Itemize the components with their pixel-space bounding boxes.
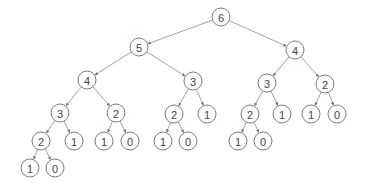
- tree-edge: [315, 92, 321, 105]
- tree-node: 1: [21, 159, 39, 177]
- node-label: 1: [235, 136, 241, 148]
- node-label: 1: [160, 136, 166, 148]
- tree-edge: [301, 57, 319, 77]
- tree-edge: [179, 89, 189, 106]
- tree-edge: [64, 121, 70, 132]
- tree-edge: [66, 87, 81, 106]
- node-label: 6: [218, 12, 224, 24]
- node-label: 2: [38, 136, 44, 148]
- node-label: 0: [127, 136, 133, 148]
- node-label: 1: [27, 163, 33, 175]
- node-label: 1: [308, 109, 314, 121]
- node-label: 5: [136, 42, 142, 54]
- tree-node: 0: [46, 159, 64, 177]
- node-label: 0: [260, 136, 266, 148]
- node-label: 3: [190, 76, 196, 88]
- node-label: 0: [185, 136, 191, 148]
- tree-edge: [148, 20, 213, 44]
- node-label: 3: [264, 78, 270, 90]
- node-label: 1: [101, 136, 107, 148]
- tree-node: 1: [229, 132, 247, 150]
- tree-edge: [120, 121, 126, 132]
- tree-node: 4: [78, 71, 96, 89]
- tree-node: 2: [241, 105, 259, 123]
- tree-diagram: 6544332322121102110101010: [0, 0, 365, 192]
- tree-edge: [93, 87, 110, 106]
- node-layer: 6544332322121102110101010: [21, 8, 346, 177]
- tree-edge: [271, 91, 278, 105]
- tree-node: 5: [130, 38, 148, 56]
- tree-edge: [108, 121, 113, 132]
- tree-node: 0: [179, 132, 197, 150]
- tree-node: 3: [258, 74, 276, 92]
- tree-node: 4: [286, 41, 304, 59]
- tree-node: 0: [121, 132, 139, 150]
- node-label: 3: [57, 108, 63, 120]
- tree-edge: [242, 122, 246, 132]
- tree-node: 1: [95, 132, 113, 150]
- tree-edge: [328, 92, 333, 105]
- tree-node: 2: [165, 105, 183, 123]
- node-label: 2: [247, 109, 253, 121]
- tree-edge: [45, 149, 50, 160]
- tree-edge: [273, 57, 289, 76]
- tree-edge: [254, 122, 259, 132]
- tree-edge: [147, 52, 185, 76]
- tree-node: 0: [254, 132, 272, 150]
- node-label: 0: [52, 163, 58, 175]
- tree-edge: [95, 52, 131, 75]
- tree-node: 2: [316, 75, 334, 93]
- tree-node: 1: [302, 105, 320, 123]
- tree-node: 1: [65, 132, 83, 150]
- tree-node: 3: [184, 72, 202, 90]
- node-label: 1: [204, 109, 210, 121]
- node-label: 2: [171, 109, 177, 121]
- tree-node: 1: [198, 105, 216, 123]
- tree-node: 3: [51, 104, 69, 122]
- node-label: 2: [322, 79, 328, 91]
- node-label: 2: [113, 108, 119, 120]
- node-label: 4: [292, 45, 298, 57]
- tree-node: 0: [328, 105, 346, 123]
- tree-node: 2: [32, 132, 50, 150]
- tree-edge: [197, 89, 204, 105]
- tree-node: 1: [273, 105, 291, 123]
- tree-edge: [229, 21, 286, 46]
- node-label: 1: [279, 109, 285, 121]
- tree-edge: [46, 120, 55, 133]
- node-label: 4: [84, 75, 90, 87]
- tree-edge: [178, 122, 183, 133]
- tree-node: 2: [107, 104, 125, 122]
- tree-node: 6: [212, 8, 230, 26]
- tree-node: 1: [154, 132, 172, 150]
- node-label: 1: [71, 136, 77, 148]
- tree-edge: [255, 91, 263, 106]
- tree-edge: [167, 122, 171, 132]
- tree-edge: [34, 149, 38, 159]
- node-label: 0: [334, 109, 340, 121]
